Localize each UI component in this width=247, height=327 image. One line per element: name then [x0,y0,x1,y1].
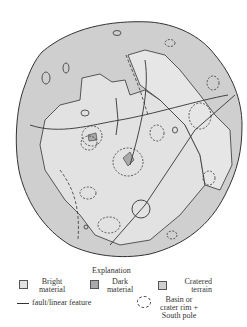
cratered-terrain-label: Cratered terrain [168,278,212,294]
fault-line-label: fault/linear feature [32,299,91,307]
basin-rim-swatch [137,296,151,308]
bright-material-swatch [19,280,28,289]
dark-material-label: Dark material [100,278,140,294]
geologic-map [0,0,247,262]
basin-rim-label: Basin or crater rim + South pole [150,296,208,320]
bright-material-label: Bright material [30,278,74,294]
dark-material-swatch [90,280,99,289]
cratered-terrain-swatch [158,281,167,290]
fault-line-swatch [17,303,29,304]
legend-title: Explanation [92,266,131,275]
